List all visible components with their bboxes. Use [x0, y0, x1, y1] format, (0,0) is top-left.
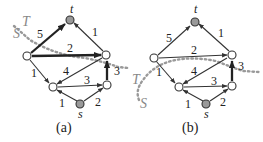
- edge-a-b: [32, 55, 101, 56]
- weight-b-c: 4: [191, 64, 197, 78]
- weight-a-c: 1: [156, 65, 162, 79]
- weight-s-c: 1: [185, 97, 191, 111]
- node-label-s: s: [78, 107, 83, 121]
- weight-b-c: 4: [63, 64, 69, 78]
- weight-a-t: 5: [37, 27, 43, 41]
- weight-c-d: 3: [211, 74, 217, 88]
- weight-b-t: 1: [218, 26, 224, 40]
- node-label-s: s: [204, 107, 209, 121]
- weight-d-b: 3: [238, 59, 244, 73]
- weight-s-d: 2: [95, 95, 101, 109]
- weight-d-b: 3: [114, 64, 120, 78]
- edge-b-c: [183, 58, 227, 84]
- weight-c-d: 3: [84, 73, 90, 87]
- sink-side-label: T: [22, 14, 31, 29]
- edge-a-t: [158, 26, 190, 55]
- node-b: [228, 51, 236, 59]
- sink-side-label: T: [132, 72, 141, 87]
- edge-b-t: [199, 24, 229, 51]
- node-b: [102, 51, 110, 59]
- node-a: [23, 52, 31, 60]
- node-d: [228, 82, 236, 90]
- node-t: [191, 18, 199, 26]
- weight-s-c: 1: [59, 96, 65, 110]
- node-a: [150, 54, 158, 62]
- edge-b-t: [74, 23, 103, 51]
- weight-b-t: 1: [92, 25, 98, 39]
- weight-a-t: 5: [166, 31, 172, 45]
- node-t: [66, 16, 74, 24]
- panel-caption: (b): [182, 120, 199, 136]
- panel-b: S T 5 1 2 1 4 3 3 1 2 t s (b): [132, 2, 259, 136]
- source-side-label: S: [140, 96, 147, 111]
- weight-a-b: 2: [67, 41, 73, 55]
- node-label-t: t: [194, 2, 198, 16]
- node-c: [49, 83, 57, 91]
- source-side-label: S: [13, 26, 20, 41]
- node-c: [175, 83, 183, 91]
- figure-canvas: S T 5 1 2 1 4 3 3 1 2 t s (a): [0, 0, 263, 142]
- weight-a-b: 2: [191, 43, 197, 57]
- panel-caption: (a): [56, 120, 72, 136]
- edge-c-d: [58, 85, 102, 87]
- weight-a-c: 1: [31, 66, 37, 80]
- panel-a: S T 5 1 2 1 4 3 3 1 2 t s (a): [13, 2, 128, 136]
- node-d: [103, 81, 111, 89]
- weight-s-d: 2: [220, 95, 226, 109]
- edge-c-d: [184, 86, 227, 87]
- node-label-t: t: [70, 2, 74, 16]
